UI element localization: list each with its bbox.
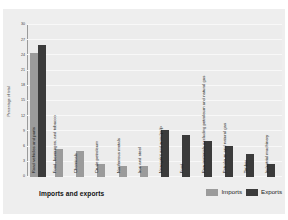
chart-screenshot: Percentage of total 036912151821242730 R… [0,0,288,220]
y-tick-label: 18 [21,84,25,88]
category-label: Iron and steel [138,147,142,173]
legend-item-exports: Exports [246,189,282,196]
legend-item-imports: Imports [206,189,242,196]
category-label: Newsprint and woodpulp [159,126,163,173]
y-axis-title: Percentage of total [8,86,12,116]
legend-swatch-imports [206,189,218,196]
chart-footer: Imports and exports Imports Exports [27,189,282,205]
category-label: Timber [244,160,248,173]
category-label: Raw materials excluding petroleum and na… [201,75,205,173]
y-tick-label: 9 [23,130,25,134]
category-label: Food, beverages, and tobacco [53,115,57,173]
y-tick-label: 15 [21,99,25,103]
y-tick-label: 0 [23,175,25,179]
legend-label-exports: Exports [261,189,282,195]
legend-swatch-exports [246,189,258,196]
bar-group [176,25,197,177]
category-label: Industrial machinery [265,135,269,173]
category-label: Petroleum and natural gas [223,123,227,173]
y-tick-label: 3 [23,160,25,164]
chart-panel: Percentage of total 036912151821242730 R… [3,9,285,214]
y-tick-label: 27 [21,38,25,42]
category-label: Road vehicles and parts [31,127,35,173]
y-tick-label: 6 [23,145,25,149]
category-label: Food [180,163,184,173]
y-tick-label: 30 [21,23,25,27]
category-label: Nonferrous metals [116,138,120,173]
chart-legend: Imports Exports [206,189,282,196]
y-tick-label: 24 [21,54,25,58]
legend-label-imports: Imports [221,189,242,195]
category-label: Crude petroleum [95,141,99,173]
x-axis-title: Imports and exports [39,191,104,198]
y-tick-label: 12 [21,114,25,118]
y-tick-label: 21 [21,69,25,73]
category-label: Chemicals [74,153,78,173]
bar-exports [38,45,46,177]
bar-group [240,25,261,177]
plot-area: 036912151821242730 Road vehicles and par… [27,25,282,177]
